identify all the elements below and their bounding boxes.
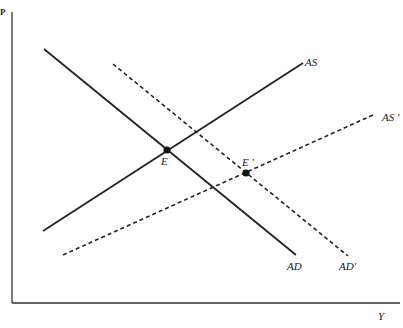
- as-ad-diagram: P Y AS AS ' AD AD' E E ': [0, 0, 403, 328]
- y-axis-label: P: [0, 7, 6, 17]
- ad-curve: [44, 49, 296, 255]
- equilibrium-point-e-prime: [242, 169, 249, 176]
- as-prime-label: AS ': [381, 111, 400, 123]
- as-label: AS: [304, 56, 318, 68]
- equilibrium-point-e: [163, 146, 170, 153]
- ad-prime-curve: [113, 64, 348, 256]
- point-e-prime-label: E ': [241, 156, 254, 168]
- point-e-label: E: [160, 155, 168, 167]
- as-prime-curve: [63, 115, 373, 255]
- x-axis-label: Y: [378, 310, 386, 322]
- ad-label: AD: [286, 260, 302, 272]
- ad-prime-label: AD': [338, 260, 357, 272]
